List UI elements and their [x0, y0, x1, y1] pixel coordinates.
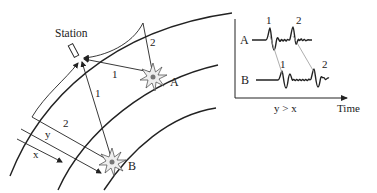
- ray-label-a-2: 2: [150, 36, 156, 48]
- station-label: Station: [55, 27, 88, 39]
- trace-b-phase-2-label: 2: [322, 58, 328, 70]
- seismic-diagram: Station 1 2 1 2 y x A B: [0, 0, 377, 193]
- ray-label-b-2: 2: [63, 117, 69, 129]
- condition-label: y > x: [274, 102, 297, 114]
- rays-from-b: [32, 62, 111, 160]
- time-axis-label: Time: [337, 102, 360, 114]
- ray-b-reflected-down: [32, 63, 78, 117]
- station-icon: [68, 44, 79, 58]
- trace-a-waveform: [252, 27, 312, 50]
- trace-b-waveform: [256, 69, 329, 88]
- trace-b-phase-1-label: 1: [280, 58, 286, 70]
- rays-from-a: [84, 23, 152, 72]
- trace-a-label: A: [240, 33, 249, 47]
- source-b-star-icon: [99, 148, 126, 176]
- trace-a-phase-1-label: 1: [266, 14, 272, 26]
- deep-layer-arc: [104, 108, 216, 190]
- seismogram-panel: [235, 19, 347, 98]
- surface-arc: [10, 13, 232, 176]
- source-a-label: A: [170, 75, 179, 89]
- layer-boundary-arc: [58, 65, 218, 190]
- distance-x-arrow: [17, 139, 62, 162]
- trace-b-label: B: [241, 73, 249, 87]
- trace-a-phase-2-label: 2: [296, 14, 302, 26]
- distance-label-x: x: [33, 148, 39, 160]
- ray-label-b-1: 1: [95, 87, 101, 99]
- source-b-label: B: [128, 159, 136, 173]
- correlation-line-2: [293, 36, 314, 72]
- ray-label-a-1: 1: [112, 68, 118, 80]
- source-a-star-icon: [140, 63, 167, 91]
- ray-b-reflected-up: [32, 117, 108, 160]
- arrow-to-a: [128, 80, 145, 91]
- distance-label-y: y: [45, 128, 51, 140]
- ray-b-direct: [82, 62, 111, 157]
